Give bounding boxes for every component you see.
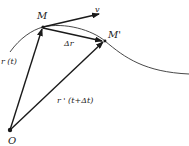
label-r-t-dt: r ' (t+Δt): [57, 96, 93, 105]
label-r-t: r (t): [1, 57, 17, 66]
point-m: [41, 25, 44, 28]
trajectory-curve: [10, 25, 189, 74]
label-velocity: v: [95, 5, 100, 14]
label-m: M: [36, 10, 48, 21]
label-delta-r: Δr: [63, 39, 75, 48]
kinematics-diagram: M M' O v Δr r (t) r ' (t+Δt): [0, 0, 189, 146]
label-origin: O: [8, 135, 16, 146]
vector-velocity: [43, 14, 99, 27]
label-m-prime: M': [107, 29, 121, 40]
point-m-prime: [104, 40, 107, 43]
origin-point: [8, 128, 12, 132]
